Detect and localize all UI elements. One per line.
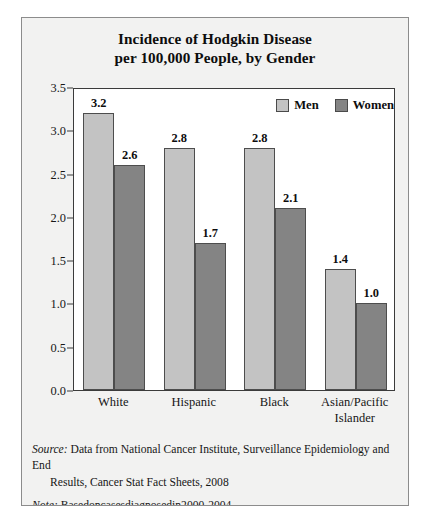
y-axis-tick-label: 2.5: [51, 167, 67, 182]
bar-value-label: 1.4: [333, 252, 349, 267]
bar-value-label: 2.8: [172, 131, 188, 146]
general-note: Note: Basedoncasesdiagnosedin2000-2004: [32, 498, 400, 506]
bar-women[interactable]: [356, 303, 387, 390]
plot-region: 0.00.51.01.52.02.53.03.5 3.22.62.81.72.8…: [22, 88, 409, 413]
x-axis: WhiteHispanicBlackAsian/PacificIslander: [73, 394, 395, 434]
x-axis-category-line: Black: [234, 394, 315, 410]
x-axis-category-line: Islander: [315, 410, 396, 426]
legend-item-men[interactable]: Men: [276, 98, 318, 113]
bar-men[interactable]: [325, 269, 356, 390]
bars-layer: 3.22.62.81.72.82.11.41.0: [74, 89, 394, 390]
source-text-line-2: Results, Cancer Stat Fact Sheets, 2008: [32, 475, 400, 491]
bar-women[interactable]: [114, 165, 145, 390]
y-axis-tick-label: 3.0: [51, 124, 67, 139]
bar-women[interactable]: [195, 243, 226, 390]
bar-slot: 1.4: [325, 89, 356, 390]
x-axis-category-label: Black: [234, 394, 315, 410]
chart-title-line-2: per 100,000 People, by Gender: [22, 48, 408, 67]
note-text: Basedoncasesdiagnosedin2000-2004: [61, 499, 232, 506]
chart-figure: Incidence of Hodgkin Disease per 100,000…: [21, 17, 409, 506]
y-axis-tick-label: 2.0: [51, 210, 67, 225]
bar-value-label: 2.8: [252, 131, 268, 146]
plot-area: 3.22.62.81.72.82.11.41.0: [73, 88, 395, 391]
bar-value-label: 1.7: [203, 226, 219, 241]
y-axis: 0.00.51.01.52.02.53.03.5: [22, 88, 73, 391]
x-axis-category-label: White: [73, 394, 154, 410]
x-axis-category-line: Hispanic: [154, 394, 235, 410]
bar-slot: 1.7: [195, 89, 226, 390]
bar-slot: 2.8: [244, 89, 275, 390]
bar-group: 1.41.0: [325, 89, 387, 390]
bar-group: 2.82.1: [244, 89, 306, 390]
bar-value-label: 2.6: [122, 148, 138, 163]
bar-men[interactable]: [83, 113, 114, 390]
bar-value-label: 3.2: [91, 96, 107, 111]
bar-slot: 2.6: [114, 89, 145, 390]
source-label: Source:: [32, 443, 68, 456]
bar-women[interactable]: [275, 208, 306, 390]
bar-value-label: 1.0: [364, 286, 380, 301]
bar-slot: 1.0: [356, 89, 387, 390]
chart-legend: MenWomen: [276, 98, 394, 113]
bar-group: 3.22.6: [83, 89, 145, 390]
bar-group: 2.81.7: [164, 89, 226, 390]
bar-slot: 2.1: [275, 89, 306, 390]
x-axis-category-label: Hispanic: [154, 394, 235, 410]
bar-men[interactable]: [244, 148, 275, 390]
figure-notes: Source: Data from National Cancer Instit…: [32, 442, 400, 506]
chart-title-line-1: Incidence of Hodgkin Disease: [22, 29, 408, 48]
source-note: Source: Data from National Cancer Instit…: [32, 442, 400, 491]
y-axis-tick-label: 0.0: [51, 384, 67, 399]
x-axis-category-line: Asian/Pacific: [315, 394, 396, 410]
y-axis-tick-label: 1.5: [51, 254, 67, 269]
legend-label: Women: [353, 98, 394, 113]
x-axis-category-line: White: [73, 394, 154, 410]
source-text-line-1: Data from National Cancer Institute, Sur…: [32, 443, 389, 472]
legend-label: Men: [294, 98, 318, 113]
note-label: Note:: [32, 499, 58, 506]
y-axis-tick-label: 1.0: [51, 297, 67, 312]
bar-men[interactable]: [164, 148, 195, 390]
legend-swatch-icon: [276, 99, 289, 112]
bar-slot: 2.8: [164, 89, 195, 390]
y-axis-tick-label: 3.5: [51, 81, 67, 96]
y-axis-tick-label: 0.5: [51, 340, 67, 355]
bar-slot: 3.2: [83, 89, 114, 390]
bar-value-label: 2.1: [283, 191, 299, 206]
x-axis-category-label: Asian/PacificIslander: [315, 394, 396, 426]
legend-item-women[interactable]: Women: [335, 98, 394, 113]
chart-title: Incidence of Hodgkin Disease per 100,000…: [22, 18, 408, 67]
legend-swatch-icon: [335, 99, 348, 112]
